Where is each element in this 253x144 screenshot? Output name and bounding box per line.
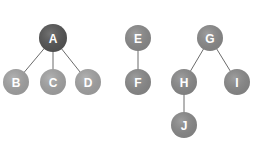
node-b: B (3, 69, 29, 95)
node-label: I (235, 76, 238, 90)
node-c: C (40, 69, 66, 95)
node-label: A (49, 32, 58, 46)
node-e: E (125, 25, 151, 51)
node-label: J (181, 119, 188, 133)
node-f: F (125, 69, 151, 95)
node-label: F (134, 76, 141, 90)
node-i: I (224, 69, 250, 95)
node-j: J (171, 112, 197, 138)
node-label: C (49, 76, 58, 90)
node-label: B (12, 76, 21, 90)
node-g: G (197, 25, 223, 51)
node-label: E (134, 32, 142, 46)
node-d: D (75, 69, 101, 95)
node-label: D (84, 76, 93, 90)
tree-diagram: ABCDEFGHIJ (0, 0, 253, 144)
node-h: H (171, 69, 197, 95)
node-a: A (39, 24, 67, 52)
node-label: G (205, 32, 214, 46)
node-label: H (180, 76, 189, 90)
nodes-group: ABCDEFGHIJ (3, 24, 250, 138)
